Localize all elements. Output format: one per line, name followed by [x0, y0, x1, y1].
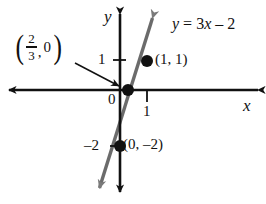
- point-marker-x-intercept: [122, 84, 134, 96]
- graph-figure: y x y = 3x – 2 1 –2 0 1 (1, 1) (0, –2) (…: [0, 0, 266, 204]
- point-label-0-neg2: (0, –2): [123, 137, 163, 152]
- point-label-1-1: (1, 1): [155, 52, 188, 67]
- fraction-denominator: 3: [26, 49, 37, 62]
- close-paren: ): [53, 34, 61, 61]
- x-intercept-callout-arrow: [75, 63, 119, 86]
- coordinate-comma: ,: [38, 45, 42, 62]
- fraction-numerator: 2: [26, 32, 37, 45]
- point-marker-1-1: [141, 55, 153, 67]
- fraction-two-thirds: 2 3: [26, 32, 37, 62]
- y-tick-label-1: 1: [98, 52, 106, 67]
- equation-label: y = 3x – 2: [172, 16, 235, 32]
- x-axis-label: x: [243, 97, 251, 114]
- y-tick-label-neg2: –2: [84, 138, 99, 153]
- equation-equals: = 3: [179, 15, 204, 32]
- point-label-x-intercept: ( 2 3 , 0 ): [14, 32, 63, 62]
- equation-rhs: – 2: [211, 15, 235, 32]
- y-axis-label: y: [104, 8, 112, 25]
- origin-label: 0: [108, 92, 116, 107]
- open-paren: (: [15, 34, 23, 61]
- coordinate-second: 0: [44, 40, 52, 55]
- x-tick-label-1: 1: [143, 104, 151, 119]
